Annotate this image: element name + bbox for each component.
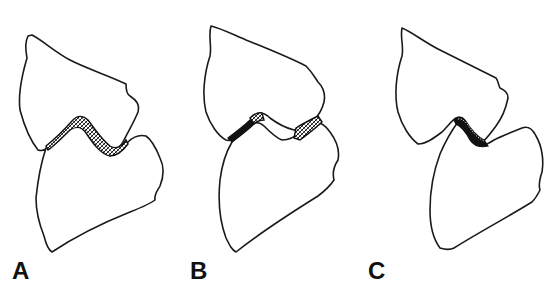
panel-c <box>396 28 543 250</box>
lower-bone-b <box>219 122 338 252</box>
panel-b <box>204 26 339 252</box>
upper-bone-c <box>396 28 508 144</box>
panel-label-c: C <box>368 259 385 283</box>
panel-label-a: A <box>12 259 29 283</box>
lower-bone-c <box>430 122 543 250</box>
panel-a <box>19 35 163 252</box>
joint-figure <box>0 0 560 286</box>
panel-label-b: B <box>190 259 207 283</box>
